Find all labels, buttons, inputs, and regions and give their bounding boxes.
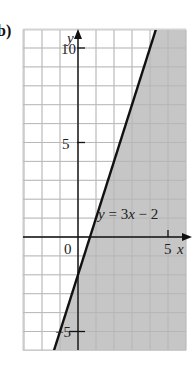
x-tick-label-5: 5 [164,241,172,257]
inequality-graph: 10 5 −5 0 5 x y y = 3x − 2 [0,0,195,370]
equation-label: y = 3x − 2 [96,206,158,222]
x-axis-arrow-icon [182,233,192,241]
y-tick-label-neg5: −5 [55,324,71,340]
y-axis-label: y [65,30,74,46]
equation-y: y [96,206,105,222]
equation-mid: = 3 [105,206,128,222]
x-axis-label: x [176,241,184,257]
shaded-region [54,25,191,355]
equation-tail: − 2 [135,206,158,222]
y-tick-label-5: 5 [62,136,70,152]
origin-label: 0 [64,241,72,257]
